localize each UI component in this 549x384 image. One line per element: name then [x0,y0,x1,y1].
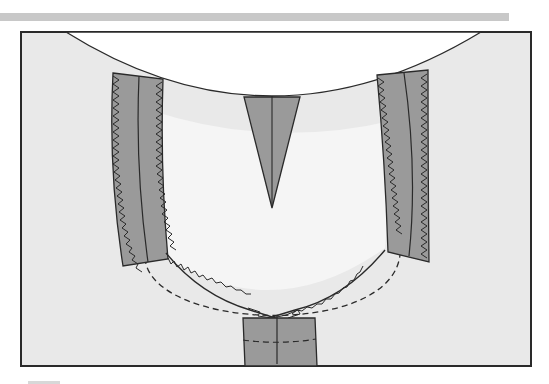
center-placket [243,316,317,366]
sewing-diagram [0,0,549,384]
